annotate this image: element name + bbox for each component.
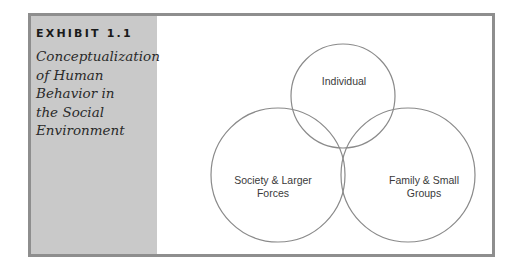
label-society-line2: Forces [257,187,289,199]
label-individual: Individual [322,75,366,87]
venn-diagram: Individual Society & Larger Forces Famil… [0,0,517,273]
label-society-line1: Society & Larger [234,174,312,186]
label-family-line1: Family & Small [389,174,459,186]
circle-individual [291,44,395,148]
label-family-line2: Groups [407,187,441,199]
